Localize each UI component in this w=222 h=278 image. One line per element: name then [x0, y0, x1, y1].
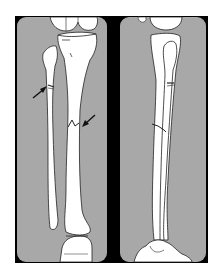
- fracture-illustration: [0, 0, 222, 278]
- femur-condyles: [50, 17, 98, 31]
- panel-lateral-view: [120, 17, 206, 262]
- panel-ap-view: [17, 17, 107, 262]
